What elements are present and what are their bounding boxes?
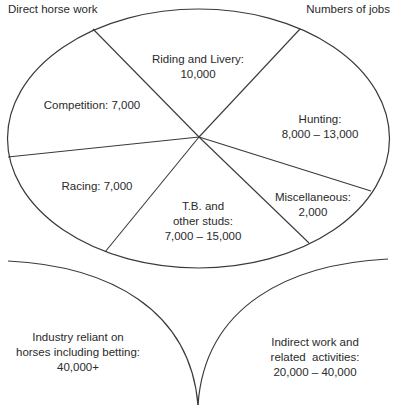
industry-reliant-value: 40,000+ <box>8 360 148 375</box>
lower-right-curve <box>198 259 388 405</box>
divider-hunting-misc <box>199 137 371 191</box>
segment-racing-label: Racing: 7,000 <box>52 179 142 194</box>
divider-competition-riding <box>93 29 199 137</box>
segment-riding-livery-value: 10,000 <box>145 67 251 82</box>
indirect-work-value: 20,000 – 40,000 <box>258 365 372 380</box>
divider-racing-competition <box>8 137 199 157</box>
segment-studs: T.B. and other studs: 7,000 – 15,000 <box>155 199 251 244</box>
segment-studs-line1: T.B. and <box>155 199 251 214</box>
segment-competition-label: Competition: 7,000 <box>36 98 148 113</box>
segment-miscellaneous: Miscellaneous: 2,000 <box>268 190 358 220</box>
industry-reliant-line1: Industry reliant on <box>8 330 148 345</box>
numbers-of-jobs-title: Numbers of jobs <box>306 2 390 16</box>
indirect-work-line2: related activities: <box>258 350 372 365</box>
segment-riding-livery-name: Riding and Livery: <box>145 52 251 67</box>
segment-competition: Competition: 7,000 <box>36 98 148 113</box>
segment-hunting: Hunting: 8,000 – 13,000 <box>265 112 375 142</box>
direct-horse-work-title: Direct horse work <box>8 2 97 16</box>
segment-miscellaneous-value: 2,000 <box>268 205 358 220</box>
segment-hunting-value: 8,000 – 13,000 <box>265 127 375 142</box>
segment-studs-value: 7,000 – 15,000 <box>155 229 251 244</box>
indirect-work-line1: Indirect work and <box>258 335 372 350</box>
segment-hunting-name: Hunting: <box>265 112 375 127</box>
industry-reliant-label: Industry reliant on horses including bet… <box>8 330 148 375</box>
industry-reliant-line2: horses including betting: <box>8 345 148 360</box>
segment-miscellaneous-name: Miscellaneous: <box>268 190 358 205</box>
segment-studs-line2: other studs: <box>155 214 251 229</box>
indirect-work-label: Indirect work and related activities: 20… <box>258 335 372 380</box>
segment-riding-livery: Riding and Livery: 10,000 <box>145 52 251 82</box>
segment-racing: Racing: 7,000 <box>52 179 142 194</box>
